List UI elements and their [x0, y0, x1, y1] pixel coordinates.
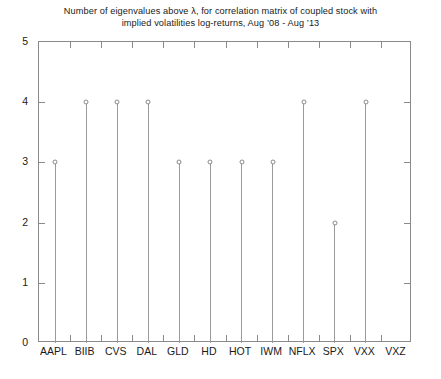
plot-frame: [38, 41, 411, 342]
data-point-marker: [53, 160, 58, 165]
y-axis-tick-label: 0: [2, 337, 28, 347]
x-axis-tick: [132, 42, 133, 48]
x-axis-tick: [288, 42, 289, 48]
stem-line: [86, 102, 87, 343]
chart-title: Number of eigenvalues above λ, for corre…: [0, 5, 441, 29]
y-axis-tick: [404, 223, 410, 224]
x-axis-tick: [70, 42, 71, 48]
x-axis-tick: [194, 42, 195, 48]
y-axis-tick-label: 3: [2, 156, 28, 166]
x-axis-tick: [163, 335, 164, 341]
chart-figure: Number of eigenvalues above λ, for corre…: [0, 0, 441, 379]
stem-line: [55, 162, 56, 343]
stem-line: [365, 102, 366, 343]
stem-line: [117, 102, 118, 343]
data-point-marker: [239, 160, 244, 165]
x-axis-tick: [319, 42, 320, 48]
data-point-marker: [208, 160, 213, 165]
y-axis-tick-label: 2: [2, 217, 28, 227]
stem-line: [148, 102, 149, 343]
y-axis-tick-labels: 012345: [0, 41, 34, 342]
x-axis-tick-label: BIIB: [75, 345, 95, 357]
x-axis-tick: [101, 42, 102, 48]
data-point-marker: [177, 160, 182, 165]
x-axis-tick: [288, 335, 289, 341]
x-axis-tick: [226, 335, 227, 341]
y-axis-tick: [39, 223, 45, 224]
x-axis-tick: [381, 335, 382, 341]
y-axis-tick: [39, 162, 45, 163]
y-axis-tick-label: 1: [2, 277, 28, 287]
data-point-marker: [332, 220, 337, 225]
stem-line: [179, 162, 180, 343]
data-point-marker: [270, 160, 275, 165]
x-axis-tick-label: NFLX: [289, 345, 316, 357]
x-axis-tick-label: HOT: [229, 345, 251, 357]
x-axis-tick: [350, 335, 351, 341]
stem-line: [210, 162, 211, 343]
x-axis-tick: [257, 42, 258, 48]
x-axis-tick: [101, 335, 102, 341]
x-axis-tick-label: HD: [201, 345, 216, 357]
x-axis-tick-label: IWM: [260, 345, 282, 357]
x-axis-tick-labels: AAPLBIIBCVSDALGLDHDHOTIWMNFLXSPXVXXVXZ: [38, 345, 411, 365]
x-axis-tick-label: VXZ: [385, 345, 405, 357]
plot-area: [39, 42, 410, 341]
y-axis-tick: [39, 102, 45, 103]
x-axis-tick: [257, 335, 258, 341]
x-axis-tick: [163, 42, 164, 48]
x-axis-tick: [70, 335, 71, 341]
x-axis-tick: [319, 335, 320, 341]
y-axis-tick-label: 4: [2, 96, 28, 106]
x-axis-tick: [350, 42, 351, 48]
x-axis-tick: [226, 42, 227, 48]
x-axis-tick-label: VXX: [354, 345, 375, 357]
x-axis-tick: [381, 42, 382, 48]
stem-line: [334, 223, 335, 343]
x-axis-tick-label: AAPL: [40, 345, 67, 357]
data-point-marker: [301, 100, 306, 105]
data-point-marker: [115, 100, 120, 105]
data-point-marker: [84, 100, 89, 105]
x-axis-tick: [132, 335, 133, 341]
x-axis-tick-label: SPX: [323, 345, 344, 357]
y-axis-tick: [404, 102, 410, 103]
data-point-marker: [146, 100, 151, 105]
stem-line: [241, 162, 242, 343]
x-axis-tick-label: GLD: [167, 345, 189, 357]
x-axis-tick: [194, 335, 195, 341]
x-axis-tick-label: CVS: [105, 345, 127, 357]
data-point-marker: [363, 100, 368, 105]
x-axis-tick-label: DAL: [137, 345, 157, 357]
stem-line: [303, 102, 304, 343]
y-axis-tick: [404, 283, 410, 284]
y-axis-tick: [39, 283, 45, 284]
y-axis-tick-label: 5: [2, 36, 28, 46]
stem-line: [272, 162, 273, 343]
y-axis-tick: [404, 162, 410, 163]
